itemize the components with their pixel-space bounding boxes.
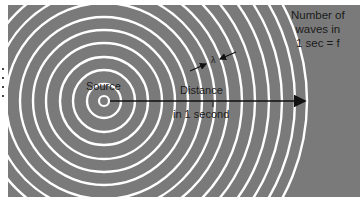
time-label: in 1 second [173,108,229,120]
source-label: Source [86,80,121,92]
frequency-label-line3: 1 sec = f [291,36,345,50]
cropped-edge-text [0,68,6,108]
wave-diagram-panel: Source Distance in 1 second λ Number of … [8,5,360,197]
wavelength-label: λ [211,54,216,66]
frequency-label: Number of waves in 1 sec = f [291,8,345,50]
frequency-label-line2: waves in [291,22,345,36]
distance-label: Distance [180,84,223,96]
frequency-label-line1: Number of [291,8,345,22]
wavefront-ring [99,96,109,106]
